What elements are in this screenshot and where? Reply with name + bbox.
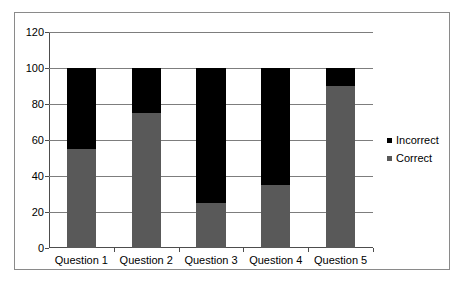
x-tick-mark (179, 248, 180, 252)
x-tick-mark (243, 248, 244, 252)
bar-segment-incorrect[interactable] (196, 68, 225, 203)
y-axis-tick-label: 100 (26, 63, 44, 74)
legend-label: Incorrect (396, 135, 439, 146)
x-axis-tick-label: Question 4 (249, 255, 302, 266)
bar-segment-correct[interactable] (196, 203, 225, 248)
bar-group[interactable] (67, 32, 96, 248)
legend-item-incorrect[interactable]: Incorrect (387, 131, 439, 149)
bar-stack (261, 32, 290, 248)
x-tick-mark (373, 248, 374, 252)
bar-segment-correct[interactable] (67, 149, 96, 248)
bar-segment-correct[interactable] (132, 113, 161, 248)
bar-stack (196, 32, 225, 248)
y-axis-tick-label: 80 (32, 99, 44, 110)
y-axis-tick-label: 40 (32, 171, 44, 182)
bar-series-group (49, 32, 373, 248)
bar-stack (67, 32, 96, 248)
bar-stack (132, 32, 161, 248)
bar-stack (326, 32, 355, 248)
x-axis-tick-label: Question 5 (314, 255, 367, 266)
chart-frame: 020406080100120 Question 1Question 2Ques… (14, 12, 450, 270)
plot-area: 020406080100120 Question 1Question 2Ques… (49, 32, 373, 248)
bar-group[interactable] (261, 32, 290, 248)
y-axis-tick-label: 120 (26, 27, 44, 38)
legend-swatch-icon (387, 138, 392, 143)
bar-segment-incorrect[interactable] (326, 68, 355, 86)
x-axis-tick-label: Question 2 (120, 255, 173, 266)
x-tick-mark (114, 248, 115, 252)
bar-group[interactable] (196, 32, 225, 248)
bar-segment-incorrect[interactable] (67, 68, 96, 149)
legend-label: Correct (396, 153, 432, 164)
legend-item-correct[interactable]: Correct (387, 149, 439, 167)
legend-swatch-icon (387, 156, 392, 161)
x-tick-mark (308, 248, 309, 252)
bar-segment-incorrect[interactable] (261, 68, 290, 185)
bar-group[interactable] (326, 32, 355, 248)
bar-segment-correct[interactable] (261, 185, 290, 248)
y-tick-mark (45, 248, 49, 249)
bar-segment-correct[interactable] (326, 86, 355, 248)
bar-segment-incorrect[interactable] (132, 68, 161, 113)
bar-group[interactable] (132, 32, 161, 248)
chart-legend: IncorrectCorrect (387, 131, 439, 167)
y-axis-tick-label: 60 (32, 135, 44, 146)
x-axis-tick-label: Question 3 (184, 255, 237, 266)
y-axis-tick-label: 0 (38, 243, 44, 254)
y-axis-tick-label: 20 (32, 207, 44, 218)
x-axis-tick-label: Question 1 (55, 255, 108, 266)
